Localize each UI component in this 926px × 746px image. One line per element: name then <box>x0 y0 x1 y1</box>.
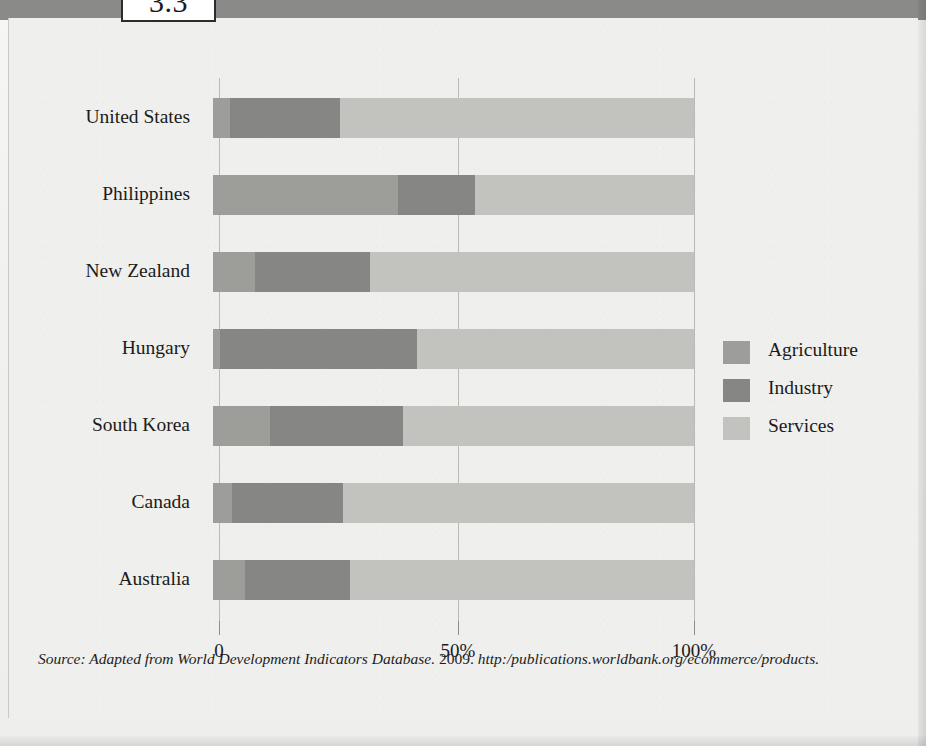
bar-segment-services <box>370 252 694 292</box>
bar-segment-services <box>417 329 694 369</box>
category-label: New Zealand <box>86 260 191 282</box>
source-note: Source: Adapted from World Development I… <box>38 648 898 670</box>
axis-tick-0 <box>219 621 220 635</box>
figure-number-tab: 3.3 <box>121 0 216 22</box>
bar-row: Philippines <box>213 175 694 215</box>
bar-segment-services <box>475 175 694 215</box>
category-label: United States <box>85 106 190 128</box>
legend-item-agriculture: Agriculture <box>723 336 903 374</box>
figure-page: 3.3 0 50% 100% United StatesPhilippinesN… <box>0 0 926 746</box>
category-label: Hungary <box>122 337 190 359</box>
legend-label-services: Services <box>768 415 834 437</box>
bar-segment-agriculture <box>213 483 232 523</box>
page-bottom-shadow <box>0 736 926 746</box>
legend-swatch-industry <box>723 379 750 402</box>
gridline-100 <box>694 78 695 621</box>
bar-segment-agriculture <box>213 252 255 292</box>
source-prefix: Source: Adapted from World Development I… <box>38 650 435 667</box>
bar-segment-industry <box>220 329 417 369</box>
bar-segment-services <box>403 406 694 446</box>
plot-area: 0 50% 100% United StatesPhilippinesNew Z… <box>213 78 694 621</box>
legend-item-industry: Industry <box>723 374 903 412</box>
category-label: Australia <box>119 568 190 590</box>
bar-segment-industry <box>255 252 370 292</box>
bar-segment-industry <box>270 406 403 446</box>
bar-row: South Korea <box>213 406 694 446</box>
bar-segment-industry <box>398 175 475 215</box>
chart-legend: Agriculture Industry Services <box>723 336 903 450</box>
legend-swatch-services <box>723 417 750 440</box>
bar-segment-services <box>343 483 694 523</box>
category-label: Canada <box>132 491 190 513</box>
bar-row: Australia <box>213 560 694 600</box>
bar-segment-agriculture <box>213 329 220 369</box>
page-edge-shadow <box>918 0 926 746</box>
bar-segment-industry <box>245 560 350 600</box>
bar-segment-industry <box>230 98 341 138</box>
axis-tick-50 <box>458 621 459 635</box>
bar-row: Hungary <box>213 329 694 369</box>
bar-row: Canada <box>213 483 694 523</box>
axis-tick-100 <box>694 621 695 635</box>
bar-segment-services <box>340 98 694 138</box>
source-url: http:/publications.worldbank.org/ecommer… <box>478 650 819 667</box>
bar-segment-industry <box>232 483 343 523</box>
legend-item-services: Services <box>723 412 903 450</box>
category-label: Philippines <box>102 183 190 205</box>
bar-segment-services <box>350 560 694 600</box>
bar-segment-agriculture <box>213 175 398 215</box>
source-year: 2009. <box>439 650 474 667</box>
figure-number: 3.3 <box>123 0 214 19</box>
bar-segment-agriculture <box>213 560 245 600</box>
bar-row: New Zealand <box>213 252 694 292</box>
bar-row: United States <box>213 98 694 138</box>
legend-label-industry: Industry <box>768 377 833 399</box>
category-label: South Korea <box>92 414 190 436</box>
bar-segment-agriculture <box>213 98 230 138</box>
legend-swatch-agriculture <box>723 341 750 364</box>
legend-label-agriculture: Agriculture <box>768 339 858 361</box>
bar-segment-agriculture <box>213 406 270 446</box>
